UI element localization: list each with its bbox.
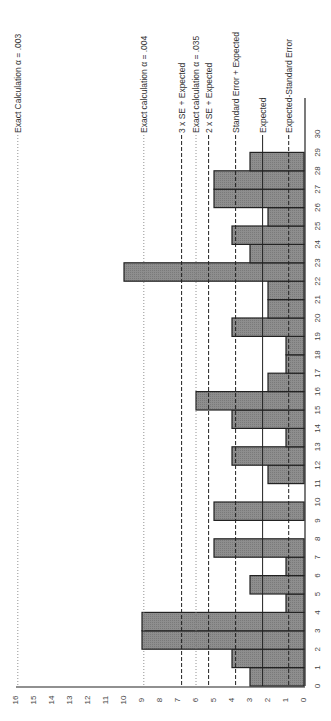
bar bbox=[286, 557, 304, 575]
reference-line-label: Expected-Standard Error bbox=[284, 39, 294, 133]
reference-line-label: Exact Calculation α = .003 bbox=[13, 34, 23, 133]
x-tick-label: 15 bbox=[313, 405, 322, 414]
y-tick-label: 6 bbox=[191, 697, 200, 702]
bar bbox=[214, 539, 304, 557]
bars-group bbox=[124, 152, 304, 686]
y-tick-label: 7 bbox=[173, 697, 182, 702]
bar bbox=[268, 465, 304, 483]
x-tick-label: 18 bbox=[313, 350, 322, 359]
bar bbox=[232, 649, 304, 667]
x-tick-label: 5 bbox=[313, 591, 322, 596]
y-tick-label: 0 bbox=[299, 697, 308, 702]
x-tick-label: 25 bbox=[313, 221, 322, 230]
x-tick-label: 13 bbox=[313, 442, 322, 451]
reference-line-label: Exact calculation α = .035 bbox=[191, 35, 201, 133]
x-tick-label: 10 bbox=[313, 497, 322, 506]
x-tick-label: 29 bbox=[313, 147, 322, 156]
x-tick-label: 21 bbox=[313, 295, 322, 304]
x-tick-label: 12 bbox=[313, 460, 322, 469]
x-tick-label: 0 bbox=[313, 683, 322, 688]
bar bbox=[250, 244, 304, 262]
x-tick-label: 16 bbox=[313, 387, 322, 396]
y-tick-label: 8 bbox=[155, 697, 164, 702]
bar bbox=[142, 612, 304, 630]
y-tick-label: 13 bbox=[65, 695, 74, 704]
bar bbox=[196, 392, 304, 410]
reference-line-label: Standard Error + Expected bbox=[231, 32, 241, 133]
reference-line-label: Exact calculation α = .004 bbox=[139, 35, 149, 133]
y-tick-label: 9 bbox=[137, 697, 146, 702]
bar bbox=[250, 152, 304, 170]
reference-line-label: 3 x SE + Expected bbox=[177, 63, 187, 133]
x-tick-label: 19 bbox=[313, 331, 322, 340]
bar bbox=[124, 263, 304, 281]
x-tick-label: 14 bbox=[313, 423, 322, 432]
x-tick-label: 24 bbox=[313, 239, 322, 248]
y-tick-label: 14 bbox=[47, 695, 56, 704]
x-tick-label: 20 bbox=[313, 313, 322, 322]
bar bbox=[268, 208, 304, 226]
bar bbox=[268, 281, 304, 299]
reference-line-label: 2 x SE + Expected bbox=[204, 63, 214, 133]
y-tick-label: 5 bbox=[209, 697, 218, 702]
x-tick-label: 7 bbox=[313, 554, 322, 559]
bar bbox=[214, 171, 304, 189]
bar bbox=[268, 300, 304, 318]
bar bbox=[214, 502, 304, 520]
bar bbox=[232, 318, 304, 336]
x-tick-label: 28 bbox=[313, 166, 322, 175]
y-tick-label: 4 bbox=[227, 697, 236, 702]
bar bbox=[232, 410, 304, 428]
x-tick-label: 11 bbox=[313, 479, 322, 488]
x-tick-label: 17 bbox=[313, 368, 322, 377]
x-tick-label: 3 bbox=[313, 628, 322, 633]
x-tick-label: 4 bbox=[313, 610, 322, 615]
x-tick-label: 6 bbox=[313, 573, 322, 578]
x-tick-label: 2 bbox=[313, 646, 322, 651]
frequency-bar-chart: Exact Calculation α = .003Exact calculat… bbox=[0, 0, 331, 721]
y-tick-label: 1 bbox=[281, 697, 290, 702]
x-tick-label: 9 bbox=[313, 518, 322, 523]
bar bbox=[268, 373, 304, 391]
y-tick-label: 10 bbox=[119, 695, 128, 704]
y-tick-label: 2 bbox=[263, 697, 272, 702]
bar bbox=[214, 189, 304, 207]
x-tick-label: 1 bbox=[313, 665, 322, 670]
x-tick-label: 27 bbox=[313, 184, 322, 193]
reference-line-label: Expected bbox=[258, 97, 268, 133]
bar bbox=[232, 226, 304, 244]
y-tick-label: 15 bbox=[29, 695, 38, 704]
x-tick-label: 8 bbox=[313, 536, 322, 541]
x-tick-label: 23 bbox=[313, 258, 322, 267]
y-tick-label: 11 bbox=[101, 695, 110, 704]
bar bbox=[142, 631, 304, 649]
y-tick-label: 3 bbox=[245, 697, 254, 702]
bar bbox=[250, 668, 304, 686]
x-tick-label: 30 bbox=[313, 129, 322, 138]
y-tick-label: 16 bbox=[11, 695, 20, 704]
x-tick-label: 22 bbox=[313, 276, 322, 285]
x-tick-label: 26 bbox=[313, 203, 322, 212]
bar bbox=[232, 447, 304, 465]
bar bbox=[250, 576, 304, 594]
y-tick-label: 12 bbox=[83, 695, 92, 704]
